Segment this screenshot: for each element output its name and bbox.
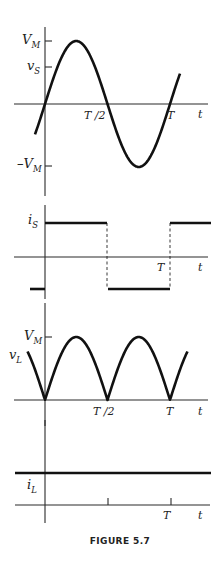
label-il: iL [27, 477, 37, 495]
panel-source-voltage: VM vS –VM T /2 T t [14, 27, 208, 196]
label-t-axis: t [198, 405, 203, 418]
panel-source-current: iS T t [14, 205, 211, 299]
panel-load-voltage: VM vL T /2 T t [9, 303, 208, 426]
figure-canvas: VM vS –VM T /2 T t iS T t VM vL T /2 T t [0, 0, 223, 566]
label-is: iS [28, 212, 38, 230]
rectified-curve [28, 337, 188, 400]
label-t: T [163, 509, 172, 522]
label-vs: vS [27, 58, 40, 76]
label-t-half: T /2 [84, 109, 106, 122]
panel-load-current: iL T t [15, 420, 211, 523]
label-t: T [166, 405, 175, 418]
label-t-half: T /2 [93, 405, 115, 418]
label-vl: vL [9, 347, 22, 365]
label-t-axis: t [198, 261, 203, 274]
label-vm: VM [22, 32, 40, 50]
label-t-axis: t [198, 509, 203, 522]
label-vm: VM [24, 328, 42, 346]
label-t-axis: t [198, 108, 203, 121]
figure-caption: FIGURE 5.7 [0, 536, 223, 546]
label-t: T [157, 261, 166, 274]
label-neg-vm: –VM [17, 156, 42, 174]
label-t: T [167, 109, 176, 122]
